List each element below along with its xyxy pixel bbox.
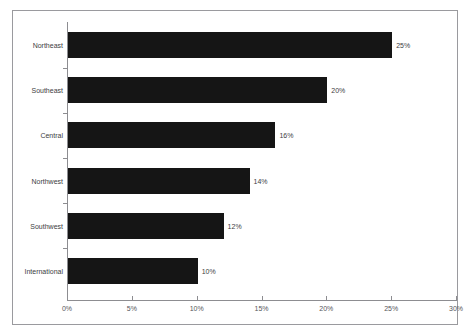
bar-value-label: 14% bbox=[254, 177, 268, 184]
bar-value-label: 12% bbox=[228, 222, 242, 229]
x-axis-tick-label: 25% bbox=[384, 305, 398, 312]
x-axis-tick bbox=[197, 296, 198, 301]
category-label: Northwest bbox=[31, 177, 63, 184]
category-label: Northeast bbox=[33, 42, 63, 49]
bar bbox=[68, 168, 250, 194]
x-axis-tick bbox=[262, 296, 263, 301]
x-axis-tick bbox=[391, 296, 392, 301]
bar-value-label: 20% bbox=[331, 87, 345, 94]
x-axis-tick-label: 10% bbox=[190, 305, 204, 312]
category-label: Southeast bbox=[31, 87, 63, 94]
x-axis-tick bbox=[67, 296, 68, 301]
x-axis-tick bbox=[132, 296, 133, 301]
x-axis-tick-label: 5% bbox=[127, 305, 137, 312]
bar-value-label: 10% bbox=[202, 268, 216, 275]
x-axis-tick-label: 0% bbox=[62, 305, 72, 312]
y-axis-tick bbox=[63, 158, 67, 159]
y-axis-tick bbox=[63, 113, 67, 114]
category-label: Central bbox=[40, 132, 63, 139]
bar bbox=[68, 258, 198, 284]
x-axis-tick-label: 20% bbox=[319, 305, 333, 312]
x-axis-tick-label: 30% bbox=[449, 305, 463, 312]
x-axis-tick bbox=[456, 296, 457, 301]
bar bbox=[68, 32, 392, 58]
bar-chart-plot-area: 0%5%10%15%20%25%30%Northeast25%Southeast… bbox=[0, 0, 467, 336]
bar-value-label: 16% bbox=[279, 132, 293, 139]
y-axis-tick bbox=[63, 248, 67, 249]
category-label: Southwest bbox=[30, 222, 63, 229]
x-axis-tick-label: 15% bbox=[254, 305, 268, 312]
category-label: International bbox=[24, 268, 63, 275]
x-axis-tick bbox=[326, 296, 327, 301]
bar bbox=[68, 122, 275, 148]
y-axis-tick bbox=[63, 203, 67, 204]
bar-value-label: 25% bbox=[396, 42, 410, 49]
bar bbox=[68, 77, 327, 103]
bar bbox=[68, 213, 224, 239]
y-axis-tick bbox=[63, 68, 67, 69]
